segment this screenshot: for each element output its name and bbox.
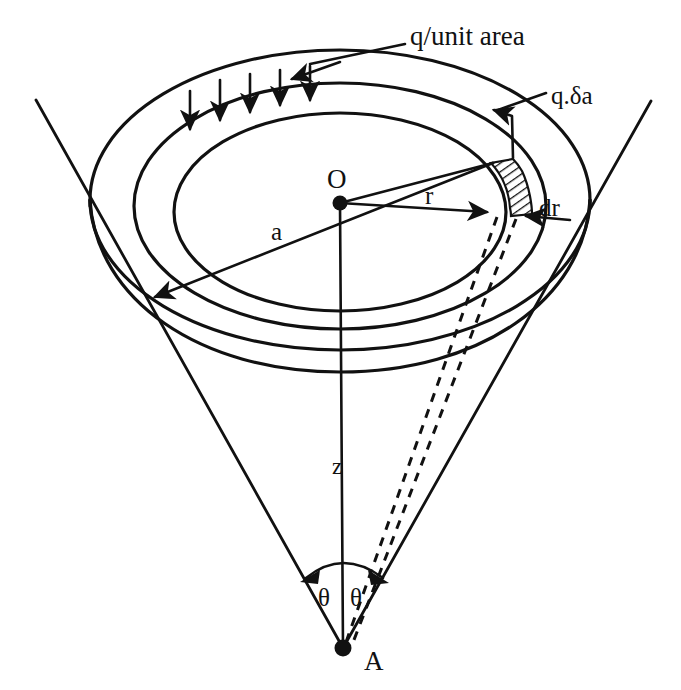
label-dr: dr bbox=[539, 194, 561, 221]
radius-r-arrow bbox=[340, 203, 487, 212]
radius-a-line bbox=[155, 163, 493, 297]
label-theta-left: θ bbox=[318, 584, 330, 611]
label-apex-A: A bbox=[364, 646, 384, 676]
center-point-dot-O bbox=[333, 196, 348, 211]
cone-left-edge bbox=[36, 100, 343, 648]
axis-line-z bbox=[340, 203, 343, 648]
cone-load-diagram: q/unit area q.δa O r a dr z θ θ A bbox=[0, 0, 681, 690]
radius-r-line bbox=[340, 203, 487, 212]
figure-root: q/unit area q.δa O r a dr z θ θ A bbox=[0, 0, 681, 690]
radius-upper-line bbox=[340, 163, 493, 203]
apex-point-dot-A bbox=[335, 640, 352, 657]
label-radius-r: r bbox=[425, 182, 434, 209]
label-q-delta-a: q.δa bbox=[551, 82, 593, 109]
ring-element-q-delta-a bbox=[491, 159, 532, 216]
label-q-per-unit-area: q/unit area bbox=[410, 21, 525, 51]
dashed-ray-inner bbox=[345, 217, 497, 645]
q-delta-a-stem bbox=[494, 110, 513, 158]
label-theta-right: θ bbox=[350, 584, 362, 611]
theta-angle-indicator bbox=[300, 563, 389, 585]
label-axis-z: z bbox=[332, 454, 342, 479]
label-center-O: O bbox=[327, 164, 347, 194]
label-radius-a: a bbox=[271, 218, 282, 245]
vertical-axis-z bbox=[340, 203, 343, 648]
q-unit-area-pointer bbox=[292, 62, 340, 79]
radius-to-patch-top bbox=[340, 163, 493, 203]
radius-a-arrow bbox=[155, 163, 493, 297]
